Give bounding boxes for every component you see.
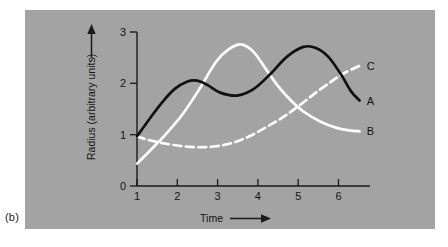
series-line-b [137,44,360,163]
x-tick-label-2: 2 [174,190,180,202]
figure-root: 3 2 1 0 Radius (arbitrary units) [0,0,448,247]
x-tick-label-4: 4 [255,190,261,202]
series-label-c: C [367,60,375,72]
x-axis-title-group: Time [200,212,271,224]
y-tick-label-2: 2 [120,77,126,89]
x-tick-label-5: 5 [295,190,301,202]
subfigure-caption: (b) [5,211,19,223]
x-axis: 1 2 3 4 5 6 [134,179,370,202]
y-axis-arrow-icon [87,24,95,58]
y-tick-label-0: 0 [120,180,126,192]
y-axis: 3 2 1 0 [120,26,137,192]
y-tick-label-3: 3 [120,26,126,38]
series-label-a: A [367,95,375,107]
series-group [137,44,360,163]
line-chart: 3 2 1 0 Radius (arbitrary units) [25,10,435,229]
y-axis-title-group: Radius (arbitrary units) [85,24,97,160]
x-axis-title: Time [200,212,223,224]
series-label-b: B [367,125,374,137]
x-tick-label-3: 3 [215,190,221,202]
series-line-c [137,66,360,147]
x-axis-arrow-icon [230,214,271,223]
chart-panel: 3 2 1 0 Radius (arbitrary units) [25,10,435,229]
y-axis-title: Radius (arbitrary units) [85,54,97,160]
x-tick-label-1: 1 [134,190,140,202]
x-tick-label-6: 6 [335,190,341,202]
series-labels: C A B [367,60,375,138]
y-tick-label-1: 1 [120,129,126,141]
